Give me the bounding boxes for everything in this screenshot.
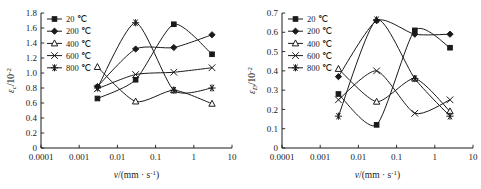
x-tick-label: 0.01 [110,152,126,162]
x-tick-label: 0.0001 [270,152,295,162]
chart-svg-right: 00.10.20.30.40.50.60.70.00010.0010.010.1… [241,0,481,189]
legend-label: 600 ℃ [66,51,91,61]
y-tick-label: 0.7 [267,8,279,18]
data-point-filled-diamond [209,32,215,38]
svg-text:εD/10-2: εD/10-2 [246,67,259,94]
data-point-star-asterisk [292,64,299,71]
chart-panel-right: 00.10.20.30.40.50.60.70.00010.0010.010.1… [241,0,481,189]
y-tick-label: 1.6 [26,23,38,33]
data-point-filled-diamond [51,28,57,34]
legend-item[interactable]: 400 ℃ [288,39,332,49]
data-point-star-asterisk [335,113,342,120]
y-axis-label: εD/10-2 [246,67,259,94]
legend-item[interactable]: 800 ℃ [288,63,332,73]
data-point-filled-diamond [292,28,298,34]
data-point-filled-square [336,92,341,97]
x-tick-label: 10 [469,152,479,162]
y-tick-label: 1.0 [26,68,38,78]
y-tick-label: 0.4 [267,66,279,76]
data-point-filled-square [95,96,100,101]
x-tick-label: 0.01 [351,152,367,162]
chart-svg-left: 00.20.40.60.81.01.21.41.61.80.00010.0010… [0,0,240,189]
y-tick-label: 0.8 [26,83,38,93]
y-axis-label: εc/10-2 [5,68,18,93]
series-layer [94,19,216,106]
series-layer [335,16,454,127]
legend-label: 400 ℃ [66,39,91,49]
data-point-filled-square [210,52,215,57]
series-800 [335,16,454,120]
data-point-cross-x [447,96,454,103]
legend-item[interactable]: 400 ℃ [47,39,91,49]
y-tick-label: 0.4 [26,113,38,123]
y-tick-label: 1.4 [26,38,38,48]
series-20 [95,22,214,101]
figure-root: 00.20.40.60.81.01.21.41.61.80.00010.0010… [0,0,481,189]
legend-label: 200 ℃ [66,26,91,36]
legend-item[interactable]: 600 ℃ [47,51,91,61]
data-point-star-asterisk [208,84,215,91]
series-200 [335,18,453,80]
data-point-open-triangle [94,64,100,70]
x-axis-label: v/(mm · s-1) [114,169,159,181]
x-tick-label: 10 [228,152,238,162]
data-point-star-asterisk [132,19,139,26]
data-point-filled-diamond [335,74,341,80]
legend: 20 ℃200 ℃400 ℃600 ℃800 ℃ [47,14,91,73]
y-tick-label: 0.6 [26,98,38,108]
x-tick-label: 0.0001 [29,152,54,162]
data-point-open-triangle [335,65,341,71]
chart-panel-left: 00.20.40.60.81.01.21.41.61.80.00010.0010… [0,0,240,189]
svg-text:εc/10-2: εc/10-2 [5,68,18,93]
y-tick-label: 1.2 [26,53,37,63]
series-200 [94,32,215,90]
legend-label: 600 ℃ [307,51,332,61]
x-tick-label: 1 [433,152,438,162]
data-point-filled-square [133,77,138,82]
data-point-filled-square [448,45,453,50]
legend-label: 20 ℃ [307,14,328,24]
data-point-filled-square [172,22,177,27]
legend-item[interactable]: 20 ℃ [47,14,87,24]
y-tick-label: 0.2 [267,105,278,115]
data-point-filled-diamond [171,44,177,50]
data-point-filled-square [52,17,57,22]
x-tick-label: 0.001 [69,152,89,162]
legend-item[interactable]: 200 ℃ [288,26,332,36]
legend-label: 400 ℃ [307,39,332,49]
y-tick-label: 0.1 [267,124,278,134]
y-tick-label: 0.5 [267,47,279,57]
series-600 [94,64,215,92]
legend-item[interactable]: 200 ℃ [47,26,91,36]
x-tick-label: 0.1 [391,152,402,162]
legend-item[interactable]: 800 ℃ [47,63,91,73]
data-point-filled-square [293,17,298,22]
legend: 20 ℃200 ℃400 ℃600 ℃800 ℃ [288,14,332,73]
legend-item[interactable]: 600 ℃ [288,51,332,61]
legend-label: 800 ℃ [307,63,332,73]
legend-label: 20 ℃ [66,14,87,24]
y-tick-label: 0.2 [26,128,37,138]
data-point-star-asterisk [51,64,58,71]
y-tick-label: 1.8 [26,8,38,18]
data-point-filled-diamond [133,46,139,52]
x-axis-ticks: 0.00010.0010.010.1110 [29,145,237,162]
x-tick-label: 0.001 [310,152,330,162]
x-axis-ticks: 0.00010.0010.010.1110 [270,145,478,162]
x-tick-label: 0.1 [150,152,161,162]
legend-label: 800 ℃ [66,63,91,73]
data-point-cross-x [335,96,342,103]
series-20 [336,28,452,127]
y-tick-label: 0.3 [267,85,279,95]
x-tick-label: 1 [192,152,197,162]
data-point-filled-square [374,123,379,128]
legend-label: 200 ℃ [307,26,332,36]
legend-item[interactable]: 20 ℃ [288,14,328,24]
x-axis-label: v/(mm · s-1) [355,169,400,181]
data-point-filled-diamond [447,31,453,37]
y-tick-label: 0.6 [267,27,279,37]
